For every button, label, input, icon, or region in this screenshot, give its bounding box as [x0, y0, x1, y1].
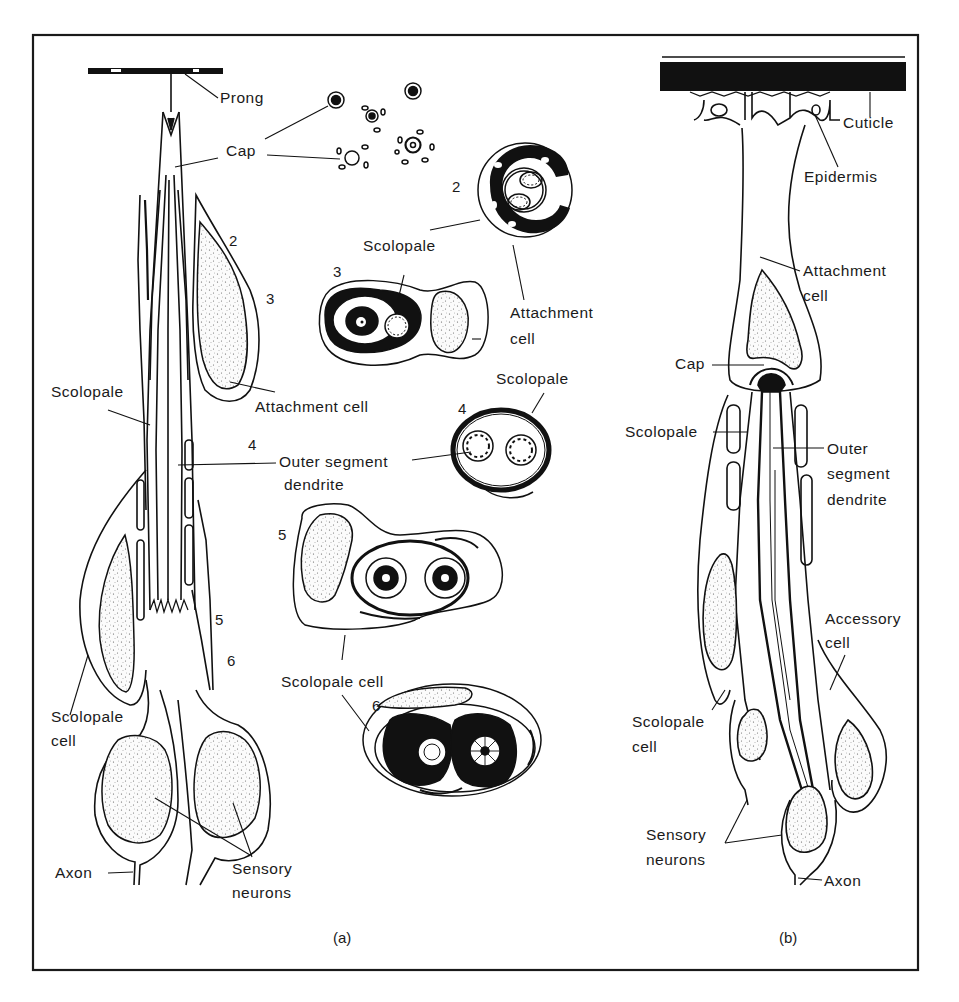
attachment-cell-nucleus-b	[747, 270, 802, 369]
label-cuticle: Cuticle	[843, 114, 894, 132]
label-cap-a: Cap	[226, 142, 256, 160]
label-outer-segment-b-line3: dendrite	[827, 491, 887, 509]
scolopale-cell-nucleus-b	[703, 554, 736, 670]
scolopale-cell-nucleus-a	[99, 535, 134, 692]
cuticle-shape	[660, 62, 906, 91]
level-marker-2: 2	[229, 232, 237, 250]
label-accessory-cell-line1: Accessory	[825, 610, 901, 628]
panel-caption-a: (a)	[333, 929, 351, 946]
label-outer-segment-b-line2: segment	[827, 465, 890, 483]
label-outer-segment-a-line2: dendrite	[284, 476, 344, 494]
label-attachment-cell-section-line2: cell	[510, 330, 535, 348]
label-sensory-neurons-a-line1: Sensory	[232, 860, 292, 878]
label-accessory-cell-line2: cell	[825, 634, 850, 652]
scolopale-cell-nucleus-section5	[301, 514, 352, 602]
sensory-neuron-2-nucleus	[194, 732, 260, 838]
label-scolopale-section2: Scolopale	[363, 237, 436, 255]
sensory-neuron-1-nucleus	[102, 736, 172, 843]
attachment-cell-nucleus-section3	[431, 291, 468, 352]
label-epidermis: Epidermis	[804, 168, 877, 186]
label-attachment-cell-a: Attachment cell	[255, 398, 368, 416]
level-marker-6: 6	[227, 652, 235, 670]
label-scolopale-a: Scolopale	[51, 383, 124, 401]
label-axon-a: Axon	[55, 864, 92, 882]
scolopale-cell-nucleus-section6	[378, 687, 472, 708]
label-prong: Prong	[220, 89, 264, 107]
label-attachment-cell-b-line2: cell	[803, 287, 828, 305]
label-scolopale-b: Scolopale	[625, 423, 698, 441]
label-scolopale-cell-a-line1: Scolopale	[51, 708, 124, 726]
label-sensory-neurons-b-line1: Sensory	[646, 826, 706, 844]
section-number-3: 3	[333, 263, 341, 281]
scolopidium-figure: Prong Cap Scolopale Attachment cell Oute…	[0, 0, 959, 1002]
label-scolopale-section4: Scolopale	[496, 370, 569, 388]
label-attachment-cell-section-line1: Attachment	[510, 304, 593, 322]
label-sensory-neurons-b-line2: neurons	[646, 851, 706, 869]
accessory-cell-nucleus	[835, 720, 872, 799]
prong-shape	[88, 68, 223, 74]
label-attachment-cell-b-line1: Attachment	[803, 262, 886, 280]
label-cap-b: Cap	[675, 355, 705, 373]
diagram-drawing	[0, 0, 959, 1002]
section-number-6: 6	[372, 697, 380, 715]
level-marker-5: 5	[215, 611, 223, 629]
section-number-2: 2	[452, 178, 460, 196]
panel-a-drawing	[80, 68, 270, 885]
label-scolopale-cell-b-line2: cell	[632, 738, 657, 756]
label-scolopale-cell-b-line1: Scolopale	[632, 713, 705, 731]
label-axon-b: Axon	[824, 872, 861, 890]
section-number-5: 5	[278, 526, 286, 544]
panel-caption-b: (b)	[779, 929, 797, 946]
level-marker-4: 4	[248, 436, 256, 454]
label-sensory-neurons-a-line2: neurons	[232, 884, 292, 902]
label-outer-segment-a-line1: Outer segment	[279, 453, 388, 471]
label-scolopale-cell-section: Scolopale cell	[281, 673, 384, 691]
label-outer-segment-b-line1: Outer	[827, 440, 868, 458]
attachment-cell-nucleus-a	[197, 222, 247, 389]
sensory-neuron-b2-nucleus	[786, 786, 827, 852]
section-number-4: 4	[458, 400, 466, 418]
label-scolopale-cell-a-line2: cell	[51, 732, 76, 750]
level-marker-3: 3	[266, 290, 274, 308]
sensory-neuron-b1-nucleus	[738, 709, 768, 761]
